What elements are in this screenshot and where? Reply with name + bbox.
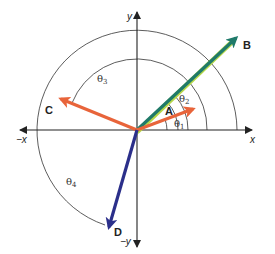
vector-b-label: B (243, 39, 251, 51)
vectors (61, 38, 236, 227)
theta3-label: θ3 (97, 73, 108, 86)
y-axis-label: y (126, 11, 133, 22)
theta2-label: θ2 (179, 93, 190, 106)
theta1-label: θ1 (174, 118, 185, 131)
vector-d (109, 130, 137, 227)
vector-d-label: D (114, 226, 122, 238)
neg-x-axis-label: −x (16, 134, 28, 145)
theta4-label: θ4 (66, 176, 77, 189)
diagram-canvas: x −x y −y A B C D θ1 θ2 θ3 θ4 (0, 0, 275, 254)
vector-c-label: C (45, 104, 53, 116)
vector-diagram: x −x y −y A B C D θ1 θ2 θ3 θ4 (0, 0, 275, 254)
vector-a-label: A (165, 105, 173, 117)
vector-c (61, 99, 137, 130)
x-axis-label: x (249, 134, 256, 145)
